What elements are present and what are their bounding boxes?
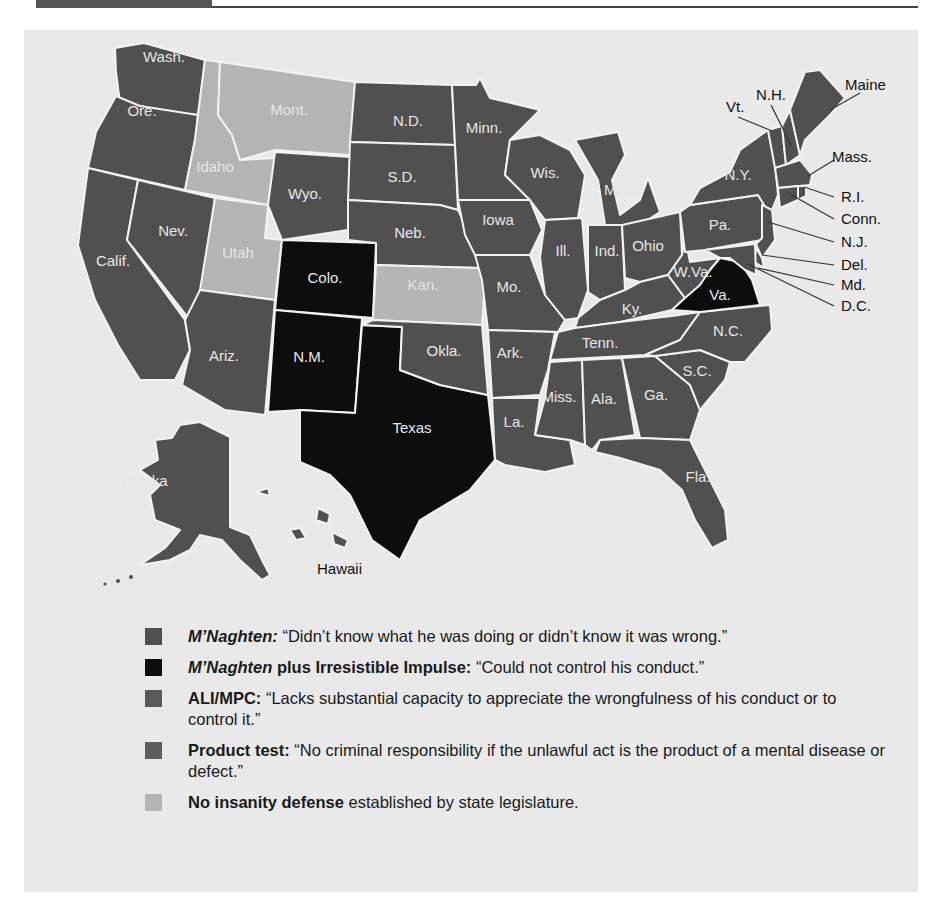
legend-desc: established by state legislature. bbox=[344, 793, 579, 811]
aleutian-island-icon bbox=[103, 582, 106, 585]
legend-term: No insanity defense bbox=[188, 793, 344, 811]
legend-desc: “Lacks substantial capacity to appreciat… bbox=[188, 689, 836, 728]
state-maine[interactable] bbox=[790, 70, 845, 155]
legend-term: Product test: bbox=[188, 741, 290, 759]
label-nj: N.J. bbox=[841, 233, 868, 250]
legend-term: M’Naghten: bbox=[188, 627, 278, 645]
aleutian-island-icon bbox=[129, 575, 133, 579]
state-north-dakota[interactable] bbox=[350, 82, 455, 145]
legend-item-mnaghten: M’Naghten: “Didn’t know what he was doin… bbox=[145, 626, 885, 647]
legend-desc: “No criminal responsibility if the unlaw… bbox=[188, 741, 885, 780]
state-wyoming[interactable] bbox=[268, 152, 350, 240]
label-nh: N.H. bbox=[756, 86, 786, 103]
swatch-product-test bbox=[145, 742, 162, 759]
leader-del bbox=[762, 255, 834, 265]
legend-item-irresistible-impulse: M’Naghten plus Irresistible Impulse: “Co… bbox=[145, 657, 885, 678]
state-hawaii[interactable] bbox=[256, 488, 348, 548]
state-colorado[interactable] bbox=[275, 240, 376, 318]
swatch-irresistible-impulse bbox=[145, 659, 162, 676]
label-dc: D.C. bbox=[841, 297, 871, 314]
label-vt: Vt. bbox=[726, 98, 744, 115]
leader-vt bbox=[738, 117, 772, 131]
legend-desc: “Could not control his conduct.” bbox=[471, 658, 704, 676]
label-maine: Maine bbox=[845, 76, 886, 93]
leader-nj bbox=[768, 222, 834, 242]
state-indiana[interactable] bbox=[588, 225, 625, 300]
state-michigan[interactable] bbox=[575, 132, 660, 225]
legend-item-no-insanity-defense: No insanity defense established by state… bbox=[145, 792, 885, 813]
aleutian-island-icon bbox=[116, 579, 120, 583]
state-arkansas[interactable] bbox=[488, 330, 555, 398]
legend: M’Naghten: “Didn’t know what he was doin… bbox=[145, 626, 885, 823]
state-rhode-island[interactable] bbox=[798, 186, 806, 200]
label-ri: R.I. bbox=[841, 188, 864, 205]
label-conn: Conn. bbox=[841, 210, 881, 227]
legend-desc: “Didn’t know what he was doing or didn’t… bbox=[278, 627, 727, 645]
state-utah[interactable] bbox=[200, 198, 282, 300]
legend-item-product-test: Product test: “No criminal responsibilit… bbox=[145, 740, 885, 782]
swatch-mnaghten bbox=[145, 628, 162, 645]
state-florida[interactable] bbox=[595, 438, 728, 548]
swatch-no-insanity-defense bbox=[145, 794, 162, 811]
leader-mass bbox=[808, 160, 834, 176]
label-mass: Mass. bbox=[832, 148, 872, 165]
legend-term-suffix: plus Irresistible Impulse: bbox=[272, 658, 471, 676]
leader-conn bbox=[790, 194, 834, 219]
label-hawaii: Hawaii bbox=[317, 560, 362, 577]
label-del: Del. bbox=[841, 256, 868, 273]
leader-dc bbox=[748, 264, 834, 306]
state-iowa[interactable] bbox=[458, 200, 542, 255]
legend-term: M’Naghten bbox=[188, 658, 272, 676]
state-arizona[interactable] bbox=[182, 290, 275, 415]
state-alaska[interactable] bbox=[140, 422, 270, 580]
leader-md bbox=[758, 268, 834, 285]
swatch-ali-mpc bbox=[145, 690, 162, 707]
state-kansas[interactable] bbox=[373, 265, 485, 325]
state-new-mexico[interactable] bbox=[268, 310, 362, 413]
state-south-dakota[interactable] bbox=[348, 142, 458, 210]
legend-term: ALI/MPC: bbox=[188, 689, 261, 707]
label-md: Md. bbox=[841, 276, 866, 293]
state-montana[interactable] bbox=[218, 62, 355, 160]
legend-item-ali-mpc: ALI/MPC: “Lacks substantial capacity to … bbox=[145, 688, 885, 730]
leader-ri bbox=[804, 187, 834, 197]
